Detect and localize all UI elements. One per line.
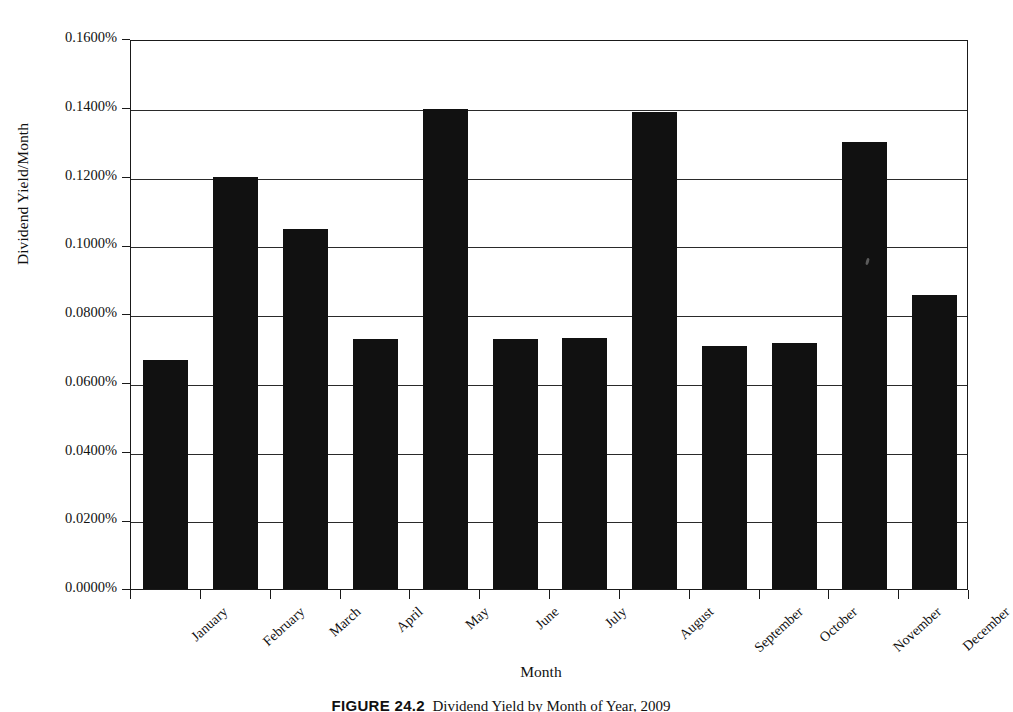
x-tick-label: November	[890, 604, 945, 655]
y-tick-mark	[122, 383, 130, 384]
x-tick-label: May	[463, 604, 493, 633]
y-tick-mark	[122, 521, 130, 522]
y-tick-label: 0.0400%	[15, 442, 117, 459]
bar	[562, 338, 607, 589]
x-tick-mark	[130, 590, 131, 599]
x-tick-label: July	[602, 604, 630, 632]
y-tick-label: 0.0600%	[15, 373, 117, 390]
bar	[353, 339, 398, 589]
x-tick-label: October	[817, 604, 861, 646]
figure-caption-label: FIGURE 24.2	[332, 697, 425, 712]
x-tick-mark	[828, 590, 829, 599]
x-tick-mark	[689, 590, 690, 599]
bar	[702, 346, 747, 589]
x-tick-mark	[549, 590, 550, 599]
x-tick-mark	[270, 590, 271, 599]
x-tick-mark	[340, 590, 341, 599]
bar	[283, 229, 328, 589]
x-tick-mark	[200, 590, 201, 599]
x-tick-label: August	[676, 604, 717, 643]
bar	[493, 339, 538, 589]
x-tick-mark	[479, 590, 480, 599]
bar	[842, 142, 887, 589]
y-axis-title: Dividend Yield/Month	[14, 79, 32, 309]
y-tick-mark	[122, 314, 130, 315]
x-tick-label: February	[260, 604, 308, 650]
x-tick-mark	[759, 590, 760, 599]
bar	[632, 112, 677, 589]
y-tick-mark	[122, 246, 130, 247]
x-tick-label: March	[326, 604, 364, 640]
bar	[423, 109, 468, 589]
y-tick-label: 0.0000%	[15, 579, 117, 596]
y-tick-mark	[122, 108, 130, 109]
bar-series	[131, 41, 967, 589]
figure-caption-text: Dividend Yield by Month of Year, 2009	[432, 698, 670, 712]
x-axis-title: Month	[0, 663, 1002, 681]
x-tick-mark	[968, 590, 969, 599]
bar	[912, 295, 957, 589]
x-tick-mark	[409, 590, 410, 599]
y-tick-mark	[122, 589, 130, 590]
x-tick-label: December	[960, 604, 1013, 654]
y-tick-mark	[122, 39, 130, 40]
x-tick-mark	[898, 590, 899, 599]
x-tick-label: September	[751, 604, 806, 656]
bar	[143, 360, 188, 589]
figure-caption: FIGURE 24.2 Dividend Yield by Month of Y…	[0, 697, 1002, 712]
plot-area	[130, 40, 968, 590]
x-axis-title-text: Month	[520, 663, 561, 680]
bar	[772, 343, 817, 589]
y-tick-label: 0.1600%	[15, 29, 117, 46]
y-tick-label: 0.0200%	[15, 510, 117, 527]
x-tick-mark	[619, 590, 620, 599]
y-tick-mark	[122, 177, 130, 178]
x-tick-label: April	[394, 604, 427, 636]
x-tick-label: June	[533, 604, 563, 633]
x-tick-label: January	[188, 604, 231, 645]
y-tick-mark	[122, 452, 130, 453]
bar	[213, 177, 258, 590]
